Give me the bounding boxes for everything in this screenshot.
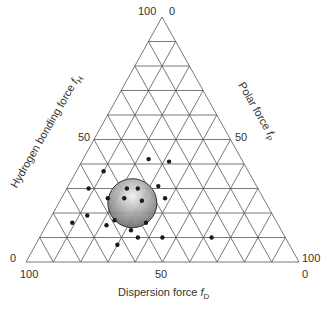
- data-point: [136, 186, 140, 190]
- ternary-plot: [0, 0, 328, 310]
- data-point: [163, 196, 167, 200]
- tick-right-bottom: 100: [302, 252, 320, 264]
- data-point: [106, 196, 110, 200]
- grid-line: [217, 189, 258, 263]
- axis-label-dispersion: Dispersion force fD: [118, 286, 209, 301]
- data-point: [122, 196, 126, 200]
- data-point: [125, 186, 129, 190]
- data-point: [85, 213, 89, 217]
- tick-bottom-left: 100: [20, 268, 38, 280]
- data-point: [167, 159, 171, 163]
- data-point: [140, 199, 144, 203]
- grid-line: [67, 189, 108, 263]
- grid-line: [108, 91, 203, 263]
- tick-top-right: 0: [169, 5, 175, 17]
- tick-bottom-right: 0: [302, 268, 308, 280]
- data-point: [112, 218, 116, 222]
- grid-line: [40, 238, 54, 263]
- grid-line: [272, 238, 286, 263]
- data-point: [156, 184, 160, 188]
- tick-top-left: 100: [138, 5, 156, 17]
- axis-label-dispersion-subscript: D: [204, 292, 210, 301]
- grid-line: [148, 42, 271, 263]
- tick-bottom-mid: 50: [155, 268, 167, 280]
- data-point: [146, 157, 150, 161]
- tick-left-mid: 50: [78, 131, 90, 143]
- tick-right-mid: 50: [235, 131, 247, 143]
- grid-line: [163, 140, 231, 263]
- data-point: [209, 235, 213, 239]
- grid-line: [121, 91, 217, 263]
- triangle-grid: [26, 17, 299, 262]
- data-point: [129, 228, 133, 232]
- data-point: [160, 235, 164, 239]
- data-point: [104, 223, 108, 227]
- data-point: [101, 169, 105, 173]
- data-point: [136, 235, 140, 239]
- tick-left-bottom: 0: [10, 252, 16, 264]
- ternary-diagram: 100 0 50 50 0 100 100 50 0 Dispersion fo…: [0, 0, 328, 310]
- data-point: [115, 243, 119, 247]
- data-point: [86, 186, 90, 190]
- data-point: [70, 221, 74, 225]
- axis-label-dispersion-text: Dispersion force: [118, 286, 201, 298]
- data-point: [144, 221, 148, 225]
